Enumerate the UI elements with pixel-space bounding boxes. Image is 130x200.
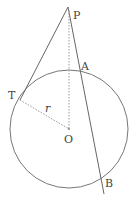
label-a: A — [81, 61, 89, 72]
label-r: r — [45, 103, 50, 114]
center-point — [68, 128, 70, 130]
label-p: P — [73, 10, 80, 21]
label-b: B — [105, 178, 113, 189]
geometry-diagram: P A T r O B — [0, 0, 130, 200]
secant-line-pb — [68, 7, 104, 194]
diagram-canvas — [0, 0, 130, 200]
tangent-line-pt — [20, 7, 68, 100]
label-o: O — [64, 134, 73, 145]
label-t: T — [8, 90, 15, 101]
